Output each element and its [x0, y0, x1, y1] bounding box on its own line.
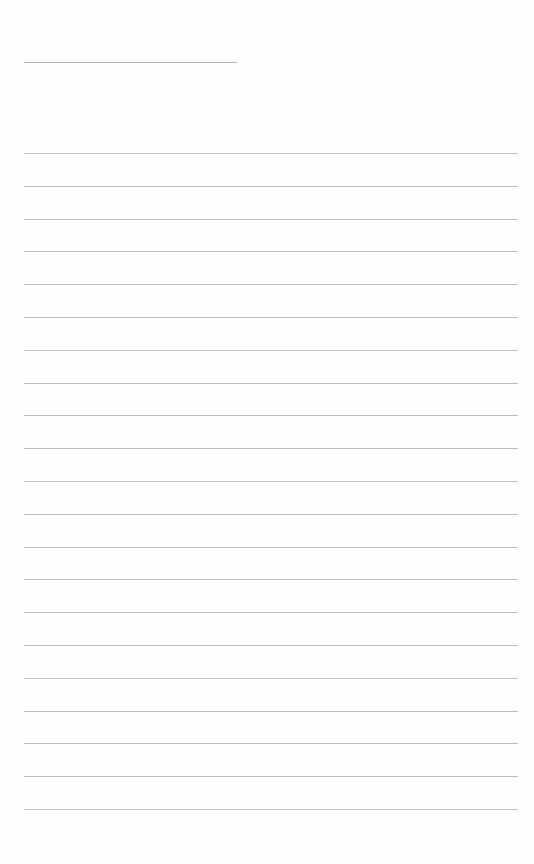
ruled-line	[24, 448, 518, 449]
ruled-line	[24, 678, 518, 679]
title-write-line	[24, 62, 237, 63]
ruled-line	[24, 251, 518, 252]
ruled-line	[24, 153, 518, 154]
ruled-line	[24, 219, 518, 220]
ruled-line	[24, 186, 518, 187]
lined-paper-page	[0, 0, 534, 864]
ruled-line	[24, 645, 518, 646]
ruled-line	[24, 350, 518, 351]
ruled-line	[24, 514, 518, 515]
ruled-line	[24, 317, 518, 318]
ruled-line	[24, 284, 518, 285]
ruled-line	[24, 481, 518, 482]
ruled-line	[24, 579, 518, 580]
ruled-line	[24, 809, 518, 810]
ruled-line	[24, 415, 518, 416]
ruled-line	[24, 743, 518, 744]
ruled-line	[24, 612, 518, 613]
ruled-line	[24, 711, 518, 712]
ruled-line	[24, 383, 518, 384]
ruled-line	[24, 547, 518, 548]
ruled-line	[24, 776, 518, 777]
